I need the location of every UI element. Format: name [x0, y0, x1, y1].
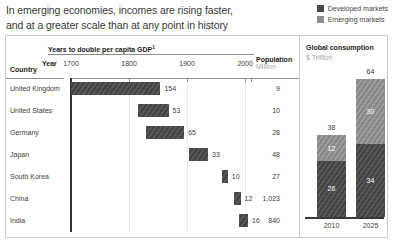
years-value-label: 154 — [164, 78, 176, 100]
gdp-bar — [234, 192, 241, 205]
axis-tick-label: 1700 — [63, 60, 79, 67]
country-column-header: Country — [10, 66, 37, 73]
country-label: Japan — [10, 144, 29, 166]
axis-tick-label: 1900 — [179, 60, 195, 67]
legend-label-developed: Developed markets — [328, 5, 388, 12]
emerging-segment: 12 — [317, 135, 346, 161]
population-label: Population — [256, 56, 300, 63]
developed-segment: 26 — [317, 161, 346, 217]
country-label: Germany — [10, 122, 39, 144]
page-title-line1: In emerging economies, incomes are risin… — [6, 3, 233, 18]
country-label: United States — [10, 100, 52, 122]
population-value: 1,023 — [249, 188, 280, 210]
table-row: South Korea1027 — [6, 166, 299, 188]
gdp-bar — [71, 82, 160, 95]
years-value-label: 53 — [173, 100, 181, 122]
country-label: China — [10, 188, 28, 210]
population-value: 9 — [249, 78, 280, 100]
consumption-bar: 1226 — [317, 135, 346, 217]
population-value: 840 — [249, 210, 280, 232]
legend-label-emerging: Emerging markets — [328, 16, 385, 23]
consumption-chart-title: Global consumption — [306, 44, 374, 51]
category-label: 2010 — [317, 222, 346, 229]
years-value-label: 10 — [232, 166, 240, 188]
gdp-chart-title-text: Years to double per capita GDP — [48, 46, 152, 53]
category-label: 2025 — [356, 222, 385, 229]
consumption-bar: 3034 — [356, 79, 385, 217]
page-title-line2: and at a greater scale than at any point… — [6, 18, 233, 33]
developed-markets-swatch-icon — [317, 5, 324, 12]
country-label: India — [10, 210, 25, 232]
gdp-bar — [222, 170, 228, 183]
population-value: 10 — [249, 100, 280, 122]
axis-year-label: Year — [42, 60, 57, 67]
country-label: United Kingdom — [10, 78, 60, 100]
legend: Developed markets Emerging markets — [317, 5, 388, 27]
legend-item-developed: Developed markets — [317, 5, 388, 12]
table-row: United Kingdom1549 — [6, 78, 299, 100]
total-value-label: 64 — [356, 68, 385, 75]
legend-item-emerging: Emerging markets — [317, 16, 388, 23]
population-value: 28 — [249, 122, 280, 144]
years-value-label: 33 — [212, 144, 220, 166]
consumption-chart-unit: $ Trillion — [306, 54, 332, 61]
gdp-doubling-chart: Years to double per capita GDP1 Year Cou… — [6, 36, 299, 237]
total-value-label: 38 — [317, 124, 346, 131]
population-value: 27 — [249, 166, 280, 188]
country-label: South Korea — [10, 166, 49, 188]
gdp-bar — [189, 148, 208, 161]
table-row: India16840 — [6, 210, 299, 232]
emerging-markets-swatch-icon — [317, 16, 324, 23]
gdp-bar — [146, 126, 184, 139]
emerging-segment: 30 — [356, 79, 385, 144]
axis-tick-label: 2000 — [237, 60, 253, 67]
footnote-marker: 1 — [152, 44, 155, 50]
gdp-bar — [239, 214, 248, 227]
population-unit: Million — [256, 63, 300, 70]
chart-box: Years to double per capita GDP1 Year Cou… — [5, 35, 388, 238]
gdp-bar — [138, 104, 169, 117]
gdp-title-rule — [48, 54, 254, 55]
table-row: China121,023 — [6, 188, 299, 210]
table-row: United States5310 — [6, 100, 299, 122]
page-title: In emerging economies, incomes are risin… — [6, 3, 233, 32]
table-row: Japan3348 — [6, 144, 299, 166]
consumption-baseline — [305, 217, 384, 219]
developed-segment: 34 — [356, 144, 385, 217]
axis-tick-label: 1800 — [121, 60, 137, 67]
population-column-header: Population Million — [256, 56, 300, 70]
table-row: Germany6528 — [6, 122, 299, 144]
years-value-label: 65 — [188, 122, 196, 144]
population-value: 48 — [249, 144, 280, 166]
global-consumption-chart: Global consumption $ Trillion 1226382010… — [299, 36, 388, 237]
gdp-chart-title: Years to double per capita GDP1 — [48, 44, 155, 53]
